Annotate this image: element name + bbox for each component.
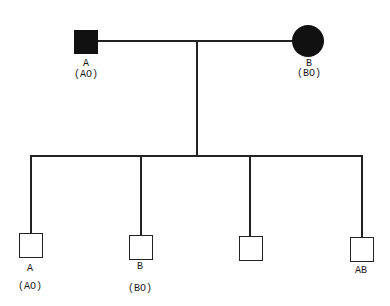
mother-affected-female-symbol — [292, 25, 324, 57]
child-2-phenotype: B — [120, 261, 160, 272]
father-affected-male-symbol — [74, 30, 98, 54]
child-2-drop — [140, 155, 142, 236]
sibship-line — [31, 155, 363, 157]
child-1-male-symbol — [19, 233, 43, 258]
child-4-drop — [361, 155, 363, 237]
mother-genotype: (BO) — [289, 68, 329, 79]
child-1-drop — [30, 155, 32, 234]
child-3-drop — [249, 155, 251, 236]
child-2-genotype: (BO) — [120, 283, 160, 294]
child-1-phenotype: A — [10, 263, 50, 274]
child-4-male-symbol — [350, 237, 374, 262]
father-phenotype: A — [66, 58, 106, 69]
child-1-genotype: (AO) — [10, 281, 50, 292]
descent-line — [196, 40, 198, 156]
child-4-phenotype: AB — [341, 265, 381, 276]
child-3-male-symbol — [239, 236, 263, 261]
child-2-male-symbol — [129, 235, 153, 260]
father-genotype: (AO) — [66, 69, 106, 80]
